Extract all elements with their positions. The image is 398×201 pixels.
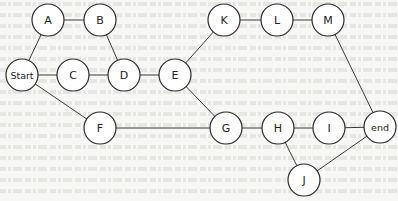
node-k: K (208, 4, 240, 36)
node-d: D (108, 59, 140, 91)
node-a: A (32, 4, 64, 36)
network-graph: ABStartCDEKLMFGHIendJ (0, 0, 398, 201)
node-label: H (274, 122, 282, 135)
node-label: G (222, 122, 231, 135)
node-label: K (220, 14, 228, 27)
node-label: F (97, 122, 103, 135)
diagram-canvas: ABStartCDEKLMFGHIendJ (0, 0, 398, 201)
node-label: E (172, 69, 179, 82)
node-f: F (84, 112, 116, 144)
node-j: J (288, 164, 320, 196)
node-g: G (210, 112, 242, 144)
node-i: I (313, 112, 345, 144)
node-label: M (323, 14, 333, 27)
node-c: C (57, 59, 89, 91)
edges-layer (22, 20, 380, 180)
node-end: end (364, 111, 396, 143)
edge-m-end (328, 20, 380, 127)
node-label: Start (10, 70, 33, 81)
node-h: H (262, 112, 294, 144)
node-b: B (84, 4, 116, 36)
node-label: D (120, 69, 128, 82)
node-label: end (371, 122, 389, 133)
nodes-layer: ABStartCDEKLMFGHIendJ (6, 4, 396, 196)
node-label: C (69, 69, 77, 82)
node-start: Start (6, 59, 38, 91)
node-label: B (96, 14, 104, 27)
node-m: M (312, 4, 344, 36)
node-label: A (44, 14, 52, 27)
node-label: L (274, 14, 281, 27)
node-label: I (327, 122, 330, 135)
node-e: E (159, 59, 191, 91)
node-l: L (261, 4, 293, 36)
node-label: J (301, 174, 305, 187)
